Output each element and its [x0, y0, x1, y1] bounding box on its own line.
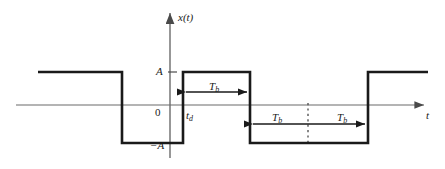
delay-marker-label: td	[186, 110, 193, 123]
tick-label-zero: 0	[155, 107, 161, 118]
tb-label-top-subscript: b	[215, 85, 219, 94]
tb-label-bottom-left-subscript: b	[278, 116, 282, 125]
waveform-diagram	[0, 0, 445, 169]
waveform-trace	[38, 72, 428, 143]
figure-canvas: x(t) A 0 −A td Tb Tb Tb t	[0, 0, 445, 169]
y-axis-label: x(t)	[178, 12, 193, 23]
tick-label-negative-amplitude: −A	[150, 140, 164, 151]
tb-label-bottom-right-subscript: b	[343, 116, 347, 125]
tick-label-positive-amplitude: A	[156, 66, 163, 77]
tb-label-bottom-right: Tb	[337, 112, 347, 125]
tb-label-bottom-left: Tb	[272, 112, 282, 125]
delay-marker-subscript: d	[189, 114, 193, 123]
tb-label-top: Tb	[209, 81, 219, 94]
time-axis-label: t	[426, 110, 429, 121]
